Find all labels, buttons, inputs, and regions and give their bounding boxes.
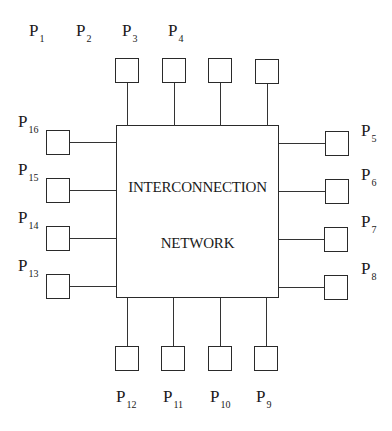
processor-label-p15: P15 bbox=[18, 161, 38, 178]
processor-box-p3 bbox=[208, 58, 232, 83]
processor-box-p8 bbox=[324, 275, 348, 300]
processor-label-p9: P9 bbox=[256, 388, 271, 405]
processor-label-p6: P6 bbox=[361, 166, 376, 183]
link-p8 bbox=[279, 287, 324, 288]
processor-box-p10 bbox=[208, 346, 232, 371]
processor-box-p14 bbox=[46, 226, 70, 251]
link-p2 bbox=[174, 83, 175, 126]
link-p5 bbox=[279, 143, 325, 144]
processor-label-p11: P11 bbox=[163, 388, 183, 405]
link-p10 bbox=[220, 298, 221, 346]
processor-box-p16 bbox=[46, 130, 70, 155]
processor-label-p16: P16 bbox=[18, 113, 38, 130]
link-p4 bbox=[267, 84, 268, 126]
processor-label-p14: P14 bbox=[18, 209, 38, 226]
network-title-line1: INTERCONNECTION bbox=[117, 179, 278, 196]
processor-box-p11 bbox=[161, 346, 185, 371]
link-p9 bbox=[266, 298, 267, 346]
processor-label-p7: P7 bbox=[361, 213, 376, 230]
processor-box-p9 bbox=[254, 346, 278, 371]
interconnection-network-diagram: INTERCONNECTION NETWORK P1 P2 P3 P4 P5 P… bbox=[0, 0, 392, 431]
link-p11 bbox=[173, 298, 174, 346]
link-p3 bbox=[220, 83, 221, 126]
processor-label-p13: P13 bbox=[18, 257, 38, 274]
link-p6 bbox=[279, 191, 325, 192]
processor-label-p2: P2 bbox=[76, 22, 91, 39]
link-p14 bbox=[70, 238, 116, 239]
processor-box-p2 bbox=[162, 58, 186, 83]
processor-box-p5 bbox=[325, 131, 349, 156]
processor-box-p1 bbox=[115, 58, 139, 83]
link-p1 bbox=[127, 83, 128, 126]
processor-box-p7 bbox=[324, 227, 348, 252]
link-p16 bbox=[70, 142, 116, 143]
processor-label-p5: P5 bbox=[361, 122, 376, 139]
processor-box-p15 bbox=[46, 178, 70, 203]
link-p15 bbox=[70, 190, 116, 191]
processor-label-p10: P10 bbox=[210, 388, 230, 405]
processor-box-p6 bbox=[325, 179, 349, 204]
processor-label-p8: P8 bbox=[361, 260, 376, 277]
processor-label-p12: P12 bbox=[116, 388, 136, 405]
processor-box-p13 bbox=[46, 274, 70, 299]
processor-label-p1: P1 bbox=[29, 22, 44, 39]
link-p7 bbox=[279, 239, 324, 240]
link-p12 bbox=[127, 298, 128, 346]
network-title-line2: NETWORK bbox=[117, 235, 278, 252]
processor-label-p3: P3 bbox=[122, 22, 137, 39]
processor-box-p4 bbox=[255, 59, 279, 84]
interconnection-network-box: INTERCONNECTION NETWORK bbox=[116, 125, 279, 298]
processor-label-p4: P4 bbox=[168, 22, 183, 39]
link-p13 bbox=[70, 286, 116, 287]
processor-box-p12 bbox=[115, 346, 139, 371]
